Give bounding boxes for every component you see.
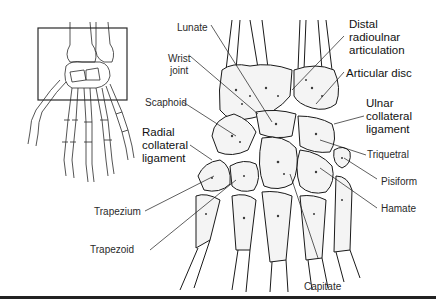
label-ulnar-collateral-line1: Ulnar (366, 97, 393, 110)
label-distal-radioulnar-line2: radioulnar (349, 31, 400, 44)
label-distal-radioulnar-line3: articulation (349, 44, 405, 57)
label-pisiform: Pisiform (381, 176, 417, 187)
label-hamate: Hamate (381, 203, 416, 214)
label-wrist-joint-line1: Wrist (168, 53, 191, 64)
hand-skeleton-inset (28, 22, 134, 182)
label-scaphoid: Scaphoid (145, 97, 187, 108)
label-capitate: Capitate (304, 281, 341, 292)
label-wrist-joint-line2: joint (170, 65, 188, 76)
label-triquetral: Triquetral (367, 149, 409, 160)
label-trapezoid: Trapezoid (90, 244, 134, 255)
label-ulnar-collateral-line2: collateral (366, 110, 412, 123)
label-ulnar-collateral-line3: ligament (366, 123, 409, 136)
label-radial-collateral-line3: ligament (142, 152, 185, 165)
label-trapezium: Trapezium (94, 206, 141, 217)
label-lunate: Lunate (177, 22, 208, 33)
label-distal-radioulnar-line1: Distal (349, 18, 378, 31)
label-radial-collateral-line1: Radial (142, 126, 175, 139)
wrist-section (180, 20, 360, 292)
label-articular-disc: Articular disc (346, 67, 412, 80)
bottom-rule (0, 296, 436, 299)
label-radial-collateral-line2: collateral (142, 139, 188, 152)
